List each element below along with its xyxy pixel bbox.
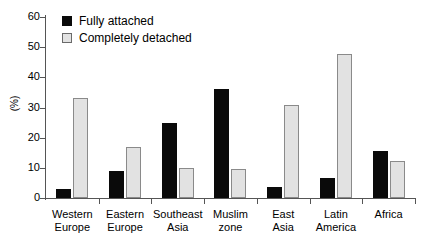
bar-group-bars [362,17,415,198]
x-axis-tick [99,198,100,204]
x-axis-category-label: EastAsia [257,208,310,234]
x-axis-category-label-line: Muslim [204,208,257,221]
bar-fully-attached[interactable] [373,151,388,198]
y-axis-tick-label: 40 [14,71,40,82]
bar-group-bars [204,17,257,198]
y-axis-tick-label: 0 [14,192,40,203]
bar-fully-attached[interactable] [56,189,71,198]
x-axis-tick [310,198,311,204]
x-axis-category-label-line: Eastern [99,208,152,221]
y-axis-tick-label: 30 [14,102,40,113]
x-axis-tick [415,198,416,204]
x-axis-category-label: EasternEurope [99,208,152,234]
bar-fully-attached[interactable] [162,123,177,198]
bar-group [310,17,363,198]
x-axis-category-label-line: Europe [46,221,99,234]
bar-chart: (%) 0102030405060 WesternEuropeEasternEu… [0,0,427,242]
legend-label: Completely detached [79,32,192,44]
y-axis-tick-label: 10 [14,162,40,173]
x-axis-category-label-line: America [310,221,363,234]
bar-group [204,17,257,198]
x-axis-category-label-line: Africa [362,208,415,221]
x-axis-category-label: Muslimzone [204,208,257,234]
x-axis-tick [257,198,258,204]
x-axis-category-label: WesternEurope [46,208,99,234]
x-axis-tick [151,198,152,204]
bar-fully-attached[interactable] [267,187,282,198]
x-axis-category-label-line: East [257,208,310,221]
legend-item-completely-detached: Completely detached [62,29,192,46]
bar-completely-detached[interactable] [126,147,141,198]
x-axis-tick [204,198,205,204]
x-axis-category-label: SoutheastAsia [151,208,204,234]
y-axis-tick-label: 20 [14,132,40,143]
x-axis-category-label-line: Latin [310,208,363,221]
x-axis-category-label-line: Southeast [151,208,204,221]
bar-completely-detached[interactable] [390,161,405,198]
bar-completely-detached[interactable] [337,54,352,198]
bar-group-bars [310,17,363,198]
legend-swatch-icon-light [62,33,72,43]
x-axis-category-label-line: Asia [151,221,204,234]
x-axis-category-label-line: zone [204,221,257,234]
x-axis-category-label-line: Asia [257,221,310,234]
legend-label: Fully attached [79,15,154,27]
chart-legend: Fully attached Completely detached [62,12,192,46]
bar-group [257,17,310,198]
x-axis-category-label: Africa [362,208,415,221]
legend-swatch-icon-dark [62,16,72,26]
y-axis-tick-label: 60 [14,11,40,22]
bar-fully-attached[interactable] [320,178,335,198]
legend-item-fully-attached: Fully attached [62,12,192,29]
x-axis-line [45,198,416,199]
bar-fully-attached[interactable] [109,171,124,198]
x-axis-tick [362,198,363,204]
bar-completely-detached[interactable] [231,169,246,198]
x-axis-category-label-line: Europe [99,221,152,234]
bar-completely-detached[interactable] [284,105,299,198]
bar-completely-detached[interactable] [179,168,194,198]
y-axis-tick [40,198,46,199]
x-axis-category-label-line: Western [46,208,99,221]
x-axis-category-label: LatinAmerica [310,208,363,234]
y-axis-tick-label: 50 [14,41,40,52]
bar-fully-attached[interactable] [214,89,229,198]
bar-completely-detached[interactable] [73,98,88,198]
bar-group [362,17,415,198]
bar-group-bars [257,17,310,198]
